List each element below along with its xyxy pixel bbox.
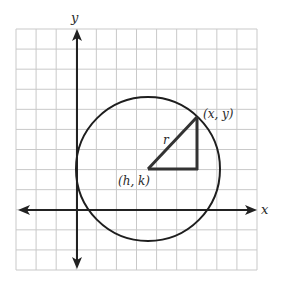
y-axis-label: y xyxy=(70,10,79,25)
point-label: (x, y) xyxy=(203,107,234,121)
x-axis-label: x xyxy=(261,202,269,217)
grid xyxy=(16,29,257,270)
radius-segment xyxy=(148,117,197,169)
center-label: (h, k) xyxy=(118,174,150,188)
circle-diagram: y x (x, y) r (h, k) xyxy=(0,0,290,286)
